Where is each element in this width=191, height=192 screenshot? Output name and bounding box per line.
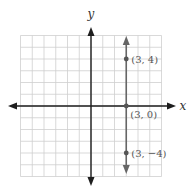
x-axis-label: x (180, 99, 187, 113)
line-up-arrow-icon (123, 36, 130, 45)
x-axis-right-arrow-icon (167, 103, 176, 110)
data-point (124, 104, 129, 109)
y-axis-up-arrow-icon (88, 27, 95, 36)
line-down-arrow-icon (123, 165, 130, 174)
chart-svg: (3, 4)(3, 0)(3, −4) x y (0, 0, 191, 192)
point-label: (3, 4) (131, 54, 158, 65)
y-axis-label: y (87, 7, 95, 21)
y-axis-down-arrow-icon (88, 177, 95, 186)
axes (8, 27, 176, 186)
coordinate-plane: (3, 4)(3, 0)(3, −4) x y (0, 0, 191, 192)
point-label: (3, 0) (130, 109, 157, 120)
data-point (124, 57, 129, 62)
data-point (124, 151, 129, 156)
x-axis-left-arrow-icon (8, 103, 17, 110)
point-label: (3, −4) (131, 148, 166, 159)
